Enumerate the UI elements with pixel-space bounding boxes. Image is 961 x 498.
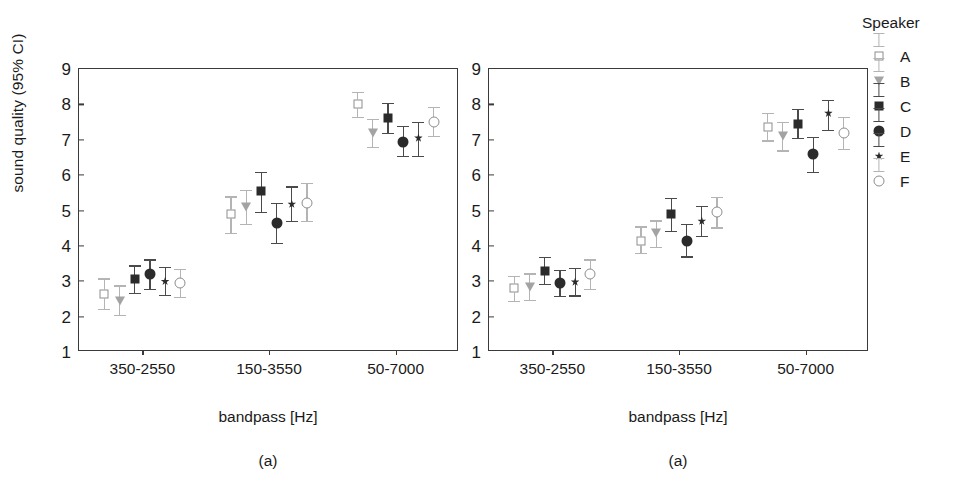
- marker-filled-circle-icon: [144, 269, 155, 280]
- error-bar-cap-lower: [554, 296, 566, 297]
- error-bar-cap-lower: [635, 253, 647, 254]
- marker-open-circle-icon: [874, 176, 885, 187]
- error-bar-cap-upper: [286, 186, 298, 187]
- y-axis-tick-label: 7: [472, 131, 489, 148]
- marker-filled-circle-icon: [681, 235, 692, 246]
- error-bar-cap-upper: [762, 113, 774, 114]
- error-bar-cap-upper: [681, 224, 693, 225]
- error-bar-cap-lower: [129, 293, 141, 294]
- y-axis-tick-label: 9: [62, 61, 79, 78]
- error-bar-cap-upper: [777, 122, 789, 123]
- error-bar-cap-lower: [539, 284, 551, 285]
- marker-filled-square-icon: [794, 119, 803, 128]
- error-bar-cap-lower: [696, 236, 708, 237]
- legend-error-bar-icon: [878, 108, 879, 122]
- marker-open-square-icon: [510, 284, 519, 293]
- y-axis-tick-label: 5: [62, 202, 79, 219]
- legend-item-e[interactable]: E: [868, 144, 961, 169]
- marker-filled-circle-icon: [398, 136, 409, 147]
- legend-item-label: C: [900, 98, 911, 116]
- figure-container: sound quality (95% CI) 123456789350-2550…: [0, 0, 961, 498]
- legend-item-f[interactable]: F: [868, 169, 961, 194]
- legend-error-bar-icon: [878, 83, 879, 97]
- error-bar-cap-upper: [98, 278, 110, 279]
- y-axis-tick-label: 8: [472, 96, 489, 113]
- error-bar-cap-upper: [240, 190, 252, 191]
- error-bar-cap-lower: [144, 289, 156, 290]
- legend-error-bar-icon: [878, 133, 879, 147]
- x-axis-tick-label: 150-3550: [236, 360, 302, 378]
- marker-open-square-icon: [637, 236, 646, 245]
- x-axis-tick-label: 50-7000: [777, 360, 834, 378]
- y-axis-tick-mark: [79, 175, 84, 176]
- error-bar-cap-lower: [584, 289, 596, 290]
- y-axis-tick-mark: [489, 175, 494, 176]
- legend-item-c[interactable]: C: [868, 94, 961, 119]
- legend-item-d[interactable]: D: [868, 119, 961, 144]
- error-bar-cap-lower: [650, 247, 662, 248]
- error-bar-cap-upper: [144, 259, 156, 260]
- plot-area-right: 123456789350-2550150-355050-7000: [488, 68, 868, 351]
- error-bar-cap-lower: [174, 297, 186, 298]
- marker-open-circle-icon: [175, 278, 186, 289]
- marker-open-triangle-icon: [525, 282, 535, 291]
- error-bar-cap-lower: [681, 256, 693, 257]
- y-axis-tick-label: 1: [472, 344, 489, 361]
- marker-open-circle-icon: [302, 197, 313, 208]
- error-bar-cap-upper: [807, 137, 819, 138]
- legend-error-bar-icon: [878, 158, 879, 172]
- marker-open-square-icon: [763, 123, 772, 132]
- x-axis-tick-mark: [679, 350, 680, 355]
- marker-open-circle-icon: [712, 207, 723, 218]
- error-bar-cap-lower: [838, 149, 850, 150]
- y-axis-tick-mark: [79, 281, 84, 282]
- marker-filled-square-icon: [130, 275, 139, 284]
- legend-item-b[interactable]: B: [868, 69, 961, 94]
- marker-filled-square-icon: [257, 187, 266, 196]
- error-bar-cap-lower: [807, 172, 819, 173]
- error-bar-cap-upper: [696, 206, 708, 207]
- error-bar-cap-lower: [822, 130, 834, 131]
- error-bar-cap-lower: [225, 233, 237, 234]
- error-bar-cap-upper: [711, 197, 723, 198]
- y-axis-tick-mark: [489, 210, 494, 211]
- y-axis-title-left: sound quality (95% CI): [9, 0, 27, 263]
- legend-item-label: E: [900, 148, 910, 166]
- error-bar-cap-upper: [635, 226, 647, 227]
- legend-error-bar-icon: [878, 33, 879, 47]
- error-bar-cap-upper: [129, 265, 141, 266]
- error-bar-cap-upper: [569, 268, 581, 269]
- y-axis-tick-mark: [79, 245, 84, 246]
- y-axis-tick-mark: [489, 245, 494, 246]
- marker-open-triangle-icon: [651, 229, 661, 238]
- marker-filled-circle-icon: [554, 278, 565, 289]
- error-bar-cap-upper: [301, 183, 313, 184]
- y-axis-tick-mark: [79, 104, 84, 105]
- error-bar-cap-lower: [792, 138, 804, 139]
- error-bar-cap-upper: [382, 103, 394, 104]
- y-axis-tick-label: 7: [62, 131, 79, 148]
- x-axis-tick-mark: [142, 350, 143, 355]
- marker-open-circle-icon: [838, 127, 849, 138]
- y-axis-tick-label: 2: [62, 308, 79, 325]
- legend-item-a[interactable]: A: [868, 44, 961, 69]
- error-bar-cap-upper: [822, 100, 834, 101]
- error-bar-cap-upper: [792, 109, 804, 110]
- y-axis-tick-label: 6: [62, 167, 79, 184]
- marker-open-triangle-icon: [778, 132, 788, 141]
- y-axis-tick-label: 8: [62, 96, 79, 113]
- error-bar-cap-lower: [98, 309, 110, 310]
- error-bar-cap-lower: [159, 295, 171, 296]
- error-bar-cap-lower: [711, 227, 723, 228]
- plot-area-left: 123456789350-2550150-355050-7000: [78, 68, 458, 351]
- marker-open-square-icon: [227, 210, 236, 219]
- x-axis-tick-label: 350-2550: [520, 360, 586, 378]
- y-axis-tick-label: 4: [472, 237, 489, 254]
- legend-item-label: A: [900, 48, 910, 66]
- x-axis-tick-label: 150-3550: [646, 360, 712, 378]
- panel-caption-left: (a): [78, 452, 458, 470]
- y-axis-tick-mark: [79, 210, 84, 211]
- y-axis-tick-mark: [79, 139, 84, 140]
- error-bar-cap-lower: [255, 212, 267, 213]
- legend-title: Speaker: [862, 14, 961, 32]
